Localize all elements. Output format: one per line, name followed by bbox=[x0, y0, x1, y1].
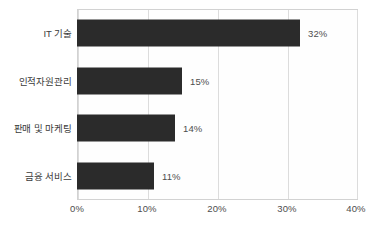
bar-value-label: 11% bbox=[162, 171, 181, 182]
bar-row: 32% bbox=[77, 9, 358, 57]
bar-row: 15% bbox=[77, 57, 358, 105]
bar-value-label: 15% bbox=[190, 75, 209, 86]
x-tick-label: 40% bbox=[346, 203, 365, 214]
x-tick-label: 10% bbox=[137, 203, 156, 214]
x-tick-label: 20% bbox=[207, 203, 226, 214]
bar-series: 32% 15% 14% 11% bbox=[77, 9, 358, 200]
bar-chart: IT 기술 인적자원관리 판매 및 마케팅 금융 서비스 32% 15% 14%… bbox=[0, 0, 375, 237]
category-label: 판매 및 마케팅 bbox=[0, 105, 72, 153]
category-label: IT 기술 bbox=[0, 9, 72, 57]
x-tick-label: 0% bbox=[70, 203, 84, 214]
y-axis-labels: IT 기술 인적자원관리 판매 및 마케팅 금융 서비스 bbox=[0, 9, 72, 200]
bar-row: 14% bbox=[77, 105, 358, 153]
bar-value-label: 14% bbox=[183, 123, 202, 134]
bar-human-resources bbox=[77, 67, 182, 94]
bar-sales-marketing bbox=[77, 115, 175, 142]
bar-financial-services bbox=[77, 163, 154, 190]
bar-row: 11% bbox=[77, 152, 358, 200]
x-tick-label: 30% bbox=[277, 203, 296, 214]
x-axis-labels: 0% 10% 20% 30% 40% bbox=[77, 203, 358, 223]
category-label: 금융 서비스 bbox=[0, 152, 72, 200]
bar-it-technology bbox=[77, 19, 300, 46]
category-label: 인적자원관리 bbox=[0, 57, 72, 105]
bar-value-label: 32% bbox=[308, 27, 327, 38]
